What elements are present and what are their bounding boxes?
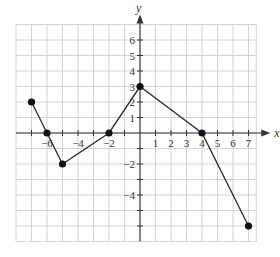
y-tick-label: −2 bbox=[123, 158, 135, 170]
data-point bbox=[198, 129, 205, 136]
x-tick-label: 7 bbox=[246, 137, 252, 149]
x-tick-label: 2 bbox=[168, 137, 174, 149]
x-tick-label: 5 bbox=[215, 137, 221, 149]
function-graph: xy −6−4−21234567654321−2−4 bbox=[0, 0, 280, 257]
y-tick-label: 6 bbox=[130, 34, 136, 46]
x-axis-label: x bbox=[273, 126, 280, 140]
data-point bbox=[105, 129, 112, 136]
x-axis-arrow-icon bbox=[261, 130, 270, 137]
data-point bbox=[28, 98, 35, 105]
data-point bbox=[59, 160, 66, 167]
y-axis-arrow-icon bbox=[137, 15, 144, 24]
y-tick-label: 1 bbox=[130, 112, 136, 124]
y-axis-label: y bbox=[135, 1, 142, 15]
data-point bbox=[245, 222, 252, 229]
data-point bbox=[136, 83, 143, 90]
x-tick-label: 1 bbox=[153, 137, 159, 149]
x-tick-label: −2 bbox=[103, 137, 115, 149]
x-tick-label: 6 bbox=[230, 137, 236, 149]
y-tick-label: −4 bbox=[123, 189, 135, 201]
x-tick-label: −4 bbox=[72, 137, 84, 149]
y-tick-label: 5 bbox=[130, 50, 136, 62]
y-tick-label: 3 bbox=[130, 81, 136, 93]
axes: xy bbox=[16, 1, 280, 242]
data-point bbox=[43, 129, 50, 136]
x-tick-label: 3 bbox=[184, 137, 190, 149]
tick-labels: −6−4−21234567654321−2−4 bbox=[32, 34, 252, 226]
y-tick-label: 4 bbox=[130, 65, 136, 77]
